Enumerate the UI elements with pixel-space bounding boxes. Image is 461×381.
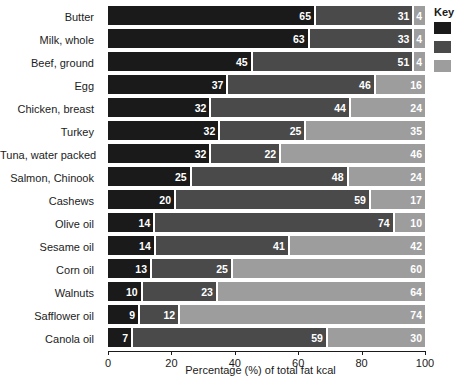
legend-swatch-polyunsaturated — [434, 60, 451, 72]
bar-segment: 63 — [108, 29, 308, 48]
legend-item — [434, 41, 461, 53]
legend-swatch-saturated — [434, 22, 451, 34]
stacked-bar-chart: ButterMilk, wholeBeef, groundEggChicken,… — [0, 0, 461, 381]
x-axis-title-text: Percentage (%) of total fat kcal — [185, 364, 335, 376]
bar-value-label: 20 — [159, 194, 171, 205]
bar-segment: 37 — [108, 75, 226, 94]
legend-item — [434, 60, 461, 72]
bar-value-label: 10 — [410, 217, 422, 228]
category-label: Sesame oil — [0, 236, 101, 259]
category-label: Safflower oil — [0, 305, 101, 328]
bar-segment: 44 — [209, 98, 348, 117]
bar-value-label: 48 — [332, 171, 344, 182]
bar-value-label: 16 — [410, 79, 422, 90]
bar-row: 75930 — [108, 328, 425, 351]
bar-segment: 46 — [279, 144, 425, 163]
bar-row: 205917 — [108, 190, 425, 213]
bar-row: 322246 — [108, 144, 425, 167]
bar-segment: 45 — [108, 52, 251, 71]
bar-segment: 35 — [304, 121, 425, 140]
x-axis-tick — [171, 351, 172, 355]
category-axis-labels: ButterMilk, wholeBeef, groundEggChicken,… — [0, 6, 101, 351]
bar-value-label: 4 — [416, 56, 422, 67]
bar-segment: 23 — [141, 282, 216, 301]
bar-segment: 25 — [150, 259, 231, 278]
legend-title: Key — [434, 6, 461, 18]
bar-segment: 24 — [347, 167, 425, 186]
bar-segment: 74 — [178, 305, 425, 324]
x-axis-tick — [298, 351, 299, 355]
bar-segment: 59 — [131, 328, 326, 347]
bar-segment: 42 — [288, 236, 425, 255]
bar-row: 324424 — [108, 98, 425, 121]
bar-value-label: 10 — [126, 286, 138, 297]
bar-value-label: 24 — [410, 171, 422, 182]
bar-segment: 10 — [393, 213, 425, 232]
plot-area: 6531463334455143746163244243225353222462… — [108, 6, 425, 351]
bar-value-label: 14 — [139, 240, 151, 251]
bar-row: 45514 — [108, 52, 425, 75]
bar-value-label: 25 — [290, 125, 302, 136]
category-label: Egg — [0, 75, 101, 98]
bar-value-label: 51 — [398, 56, 410, 67]
bar-value-label: 59 — [354, 194, 366, 205]
bar-segment: 41 — [154, 236, 288, 255]
bar-value-label: 65 — [299, 10, 311, 21]
bar-row: 63334 — [108, 29, 425, 52]
category-label: Salmon, Chinook — [0, 167, 101, 190]
bar-segment: 60 — [231, 259, 425, 278]
bar-value-label: 32 — [204, 125, 216, 136]
bar-segment: 10 — [108, 282, 141, 301]
bar-value-label: 45 — [236, 56, 248, 67]
bar-value-label: 23 — [201, 286, 213, 297]
bar-segment: 32 — [108, 144, 209, 163]
bar-row: 65314 — [108, 6, 425, 29]
bar-value-label: 32 — [195, 148, 207, 159]
category-label: Tuna, water packed — [0, 144, 101, 167]
legend-item — [434, 22, 461, 34]
bar-segment: 13 — [108, 259, 150, 278]
bar-row: 102364 — [108, 282, 425, 305]
bar-row: 144142 — [108, 236, 425, 259]
bar-row: 374616 — [108, 75, 425, 98]
category-label: Olive oil — [0, 213, 101, 236]
bar-value-label: 44 — [334, 102, 346, 113]
bar-segment: 32 — [108, 98, 209, 117]
bar-value-label: 14 — [139, 217, 151, 228]
category-label: Chicken, breast — [0, 98, 101, 121]
bar-value-label: 59 — [311, 332, 323, 343]
bar-segment: 25 — [218, 121, 304, 140]
bar-segment: 14 — [108, 236, 154, 255]
bar-segment: 46 — [226, 75, 373, 94]
bar-segment: 4 — [412, 6, 425, 25]
bar-segment: 16 — [374, 75, 425, 94]
bar-segment: 65 — [108, 6, 314, 25]
bar-segment: 33 — [308, 29, 413, 48]
bar-row: 132560 — [108, 259, 425, 282]
bar-segment: 25 — [108, 167, 190, 186]
bar-row: 147410 — [108, 213, 425, 236]
bar-value-label: 25 — [175, 171, 187, 182]
bar-segment: 48 — [190, 167, 347, 186]
bar-segment: 4 — [412, 29, 425, 48]
bar-value-label: 7 — [122, 332, 128, 343]
bar-value-label: 9 — [129, 309, 135, 320]
bar-value-label: 22 — [264, 148, 276, 159]
bar-segment: 31 — [314, 6, 412, 25]
bar-value-label: 4 — [416, 33, 422, 44]
bar-segment: 17 — [369, 190, 425, 209]
category-label: Corn oil — [0, 259, 101, 282]
bar-value-label: 32 — [195, 102, 207, 113]
bar-value-label: 46 — [410, 148, 422, 159]
bar-row: 91274 — [108, 305, 425, 328]
category-label: Turkey — [0, 121, 101, 144]
bar-value-label: 17 — [410, 194, 422, 205]
bar-value-label: 25 — [216, 263, 228, 274]
bar-segment: 59 — [174, 190, 369, 209]
bar-segment: 14 — [108, 213, 153, 232]
bar-value-label: 13 — [135, 263, 147, 274]
bar-value-label: 30 — [410, 332, 422, 343]
bar-segment: 30 — [326, 328, 425, 347]
x-axis-tick — [425, 351, 426, 355]
bar-segment: 74 — [153, 213, 392, 232]
